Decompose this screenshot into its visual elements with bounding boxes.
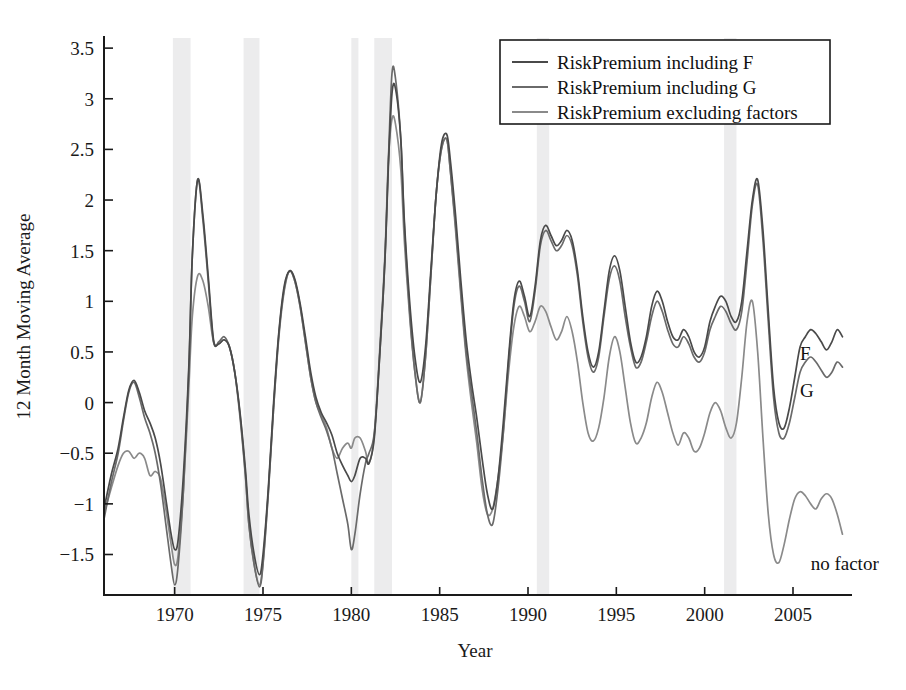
y-axis-title: 12 Month Moving Average [13, 214, 34, 420]
x-tick-label-1985: 1985 [421, 604, 459, 625]
y-tick-label-2.5: 2.5 [70, 139, 94, 160]
legend: RiskPremium including FRiskPremium inclu… [500, 40, 830, 124]
x-tick-label-1980: 1980 [332, 604, 370, 625]
y-tick-label-3: 3 [85, 89, 95, 110]
y-tick-label-3.5: 3.5 [70, 38, 94, 59]
x-tick-label-1995: 1995 [597, 604, 635, 625]
risk-premium-line-chart: 19701975198019851990199520002005 −1.5−1−… [0, 0, 906, 690]
series-label-g: G [800, 380, 814, 401]
chart-figure: 19701975198019851990199520002005 −1.5−1−… [0, 0, 906, 690]
x-tick-label-2000: 2000 [686, 604, 724, 625]
legend-label-1: RiskPremium including G [557, 77, 757, 98]
y-tick-label-1: 1 [85, 291, 95, 312]
y-tick-label--1.5: −1.5 [60, 544, 94, 565]
x-tick-label-1975: 1975 [244, 604, 282, 625]
y-tick-label-1.5: 1.5 [70, 241, 94, 262]
recession-band-1 [244, 38, 260, 595]
x-axis-title: Year [457, 640, 493, 661]
y-tick-label--0.5: −0.5 [60, 443, 94, 464]
x-tick-label-1970: 1970 [156, 604, 194, 625]
series-label-f: F [800, 343, 811, 364]
y-tick-label-0.5: 0.5 [70, 342, 94, 363]
legend-label-0: RiskPremium including F [557, 52, 753, 73]
y-tick-label-2: 2 [85, 190, 95, 211]
y-tick-label--1: −1 [74, 494, 94, 515]
x-tick-label-2005: 2005 [774, 604, 812, 625]
y-tick-label-0: 0 [85, 393, 95, 414]
legend-label-2: RiskPremium excluding factors [557, 102, 798, 123]
x-tick-label-1990: 1990 [509, 604, 547, 625]
series-label-no-factor: no factor [811, 553, 880, 574]
